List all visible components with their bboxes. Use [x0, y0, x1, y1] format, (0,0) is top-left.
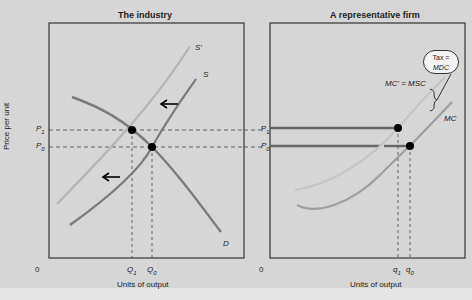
mc-label: MC — [444, 114, 456, 123]
supply-curve-s-prime — [57, 46, 190, 204]
q1-firm-label: q1 — [393, 265, 401, 276]
firm-p0-label: P0 — [261, 141, 270, 152]
y-axis-label: Price per unit — [2, 103, 11, 150]
firm-point-after-tax — [394, 124, 402, 132]
s-prime-label: S' — [195, 43, 202, 52]
msc-label: MC' = MSC — [385, 79, 426, 88]
firm-point-before-tax — [406, 142, 414, 150]
supply-curve-s — [70, 79, 196, 225]
q0-firm-label: q0 — [406, 265, 414, 276]
right-origin-label: 0 — [259, 265, 263, 274]
mc-curve — [297, 102, 452, 209]
equilibrium-point-after-tax — [128, 126, 136, 134]
q1-label: Q1 — [127, 265, 137, 276]
firm-title: A representative firm — [330, 10, 420, 20]
equilibrium-point-before-tax — [148, 143, 156, 151]
p1-label: P1 — [36, 124, 45, 135]
bottom-strip — [0, 288, 472, 300]
q0-label: Q0 — [147, 265, 157, 276]
industry-title: The industry — [118, 10, 172, 20]
d-label: D — [223, 239, 229, 248]
figure — [0, 0, 472, 300]
firm-p1-label: P1 — [261, 124, 270, 135]
right-x-axis-label: Units of output — [350, 280, 402, 289]
industry-panel — [49, 23, 244, 258]
p0-label: P0 — [36, 141, 45, 152]
left-x-axis-label: Units of output — [117, 280, 169, 289]
left-origin-label: 0 — [35, 265, 39, 274]
arrow-left-icon — [161, 100, 178, 108]
s-label: S — [203, 70, 208, 79]
arrow-left-icon — [103, 173, 120, 181]
tax-mdc-callout: Tax = MDC — [423, 50, 459, 74]
